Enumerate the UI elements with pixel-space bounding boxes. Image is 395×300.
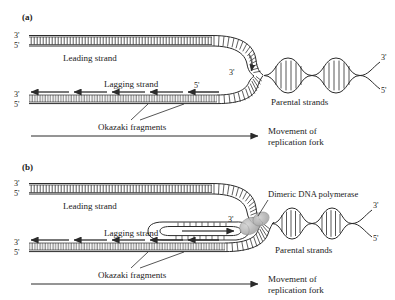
parental-helix-b — [272, 208, 372, 239]
parental-3prime-label-b: 3' — [373, 201, 379, 210]
leading-strand-label-a: Leading strand — [63, 53, 117, 63]
lagging-strand-fork-arm-a — [217, 76, 263, 104]
leading-strand-fork-arm-a — [212, 36, 263, 77]
fork-lagging-5prime-label-a: 5' — [194, 81, 200, 90]
okazaki-leader-lines-a — [131, 104, 184, 120]
panel-a: (a) — [14, 12, 387, 147]
parental-3prime-label-a: 3' — [381, 53, 387, 62]
okazaki-leader-lines-b — [131, 252, 184, 268]
okazaki-fragments-label-b: Okazaki fragments — [98, 270, 167, 280]
panel-b: (b) — [14, 162, 379, 295]
parental-5prime-label-a: 5' — [381, 86, 387, 95]
fork-movement-line2-b: replication fork — [268, 285, 324, 295]
replication-fork-diagram: (a) — [0, 0, 395, 300]
fork-leading-3prime-label-a: 3' — [229, 68, 235, 77]
leading-3prime-label-b: 3' — [14, 179, 20, 188]
dimeric-dna-polymerase-b — [237, 200, 272, 238]
parental-5prime-label-b: 5' — [373, 234, 379, 243]
leading-strand-duplex-b — [29, 184, 212, 195]
lagging-strand-duplex-a — [29, 95, 217, 104]
leading-strand-duplex-a — [29, 36, 212, 47]
lagging-5prime-label-a: 5' — [14, 100, 20, 109]
dna-replication-figure: (a) — [0, 0, 395, 300]
parental-helix-a — [264, 58, 380, 93]
leading-5prime-label-b: 5' — [14, 189, 20, 198]
okazaki-fragments-label-a: Okazaki fragments — [98, 122, 167, 132]
parental-strands-label-b: Parental strands — [275, 245, 333, 255]
fork-movement-line1-b: Movement of — [268, 274, 317, 284]
leading-strand-label-b: Leading strand — [63, 201, 117, 211]
fork-movement-line1-a: Movement of — [268, 126, 317, 136]
lagging-3prime-label-b: 3' — [14, 238, 20, 247]
leading-5prime-label-a: 5' — [14, 41, 20, 50]
lagging-strand-label-a: Lagging strand — [104, 79, 159, 89]
lagging-3prime-label-a: 3' — [14, 90, 20, 99]
lagging-strand-label-b: Lagging strand — [104, 228, 159, 238]
panel-b-tag: (b) — [22, 162, 33, 172]
fork-leading-3prime-label-b: 3' — [228, 215, 234, 224]
parental-strands-label-a: Parental strands — [271, 97, 329, 107]
lagging-strand-duplex-b — [29, 243, 225, 252]
dimeric-polymerase-label-b: Dimeric DNA polymerase — [268, 189, 358, 199]
lagging-5prime-label-b: 5' — [14, 248, 20, 257]
leading-3prime-label-a: 3' — [14, 31, 20, 40]
panel-a-tag: (a) — [22, 12, 33, 22]
fork-movement-line2-a: replication fork — [268, 137, 324, 147]
